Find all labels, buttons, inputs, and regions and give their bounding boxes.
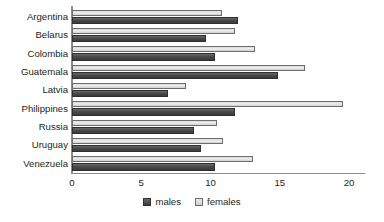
legend-item-females: females (195, 196, 241, 207)
bar-males (72, 72, 278, 79)
bar-males (72, 17, 238, 24)
bar-males (72, 145, 201, 152)
x-axis-line (71, 173, 365, 174)
bar-group (72, 136, 349, 154)
y-axis-label: Belarus (0, 26, 68, 44)
bar-females (72, 101, 343, 107)
legend-label: females (207, 196, 241, 207)
bar-females (72, 65, 305, 71)
bar-females (72, 120, 217, 126)
x-axis-tick-label: 20 (344, 176, 355, 190)
y-axis-category-labels: ArgentinaBelarusColombiaGuatemalaLatviaP… (0, 8, 68, 173)
bar-females (72, 10, 222, 16)
x-axis-tick-label: 10 (205, 176, 216, 190)
y-axis-label: Colombia (0, 45, 68, 63)
y-axis-label: Venezuela (0, 155, 68, 173)
y-axis-label: Uruguay (0, 136, 68, 154)
y-axis-label: Philippines (0, 100, 68, 118)
bar-group (72, 155, 349, 173)
bar-group (72, 118, 349, 136)
bar-males (72, 127, 194, 134)
y-axis-label: Russia (0, 118, 68, 136)
bar-group (72, 81, 349, 99)
x-axis-tick-label: 5 (139, 176, 144, 190)
y-axis-label: Guatemala (0, 63, 68, 81)
x-axis-tick-labels: 05101520 (0, 176, 384, 192)
legend-label: males (155, 196, 181, 207)
plot-area (72, 8, 349, 173)
bar-females (72, 156, 253, 162)
bar-group (72, 100, 349, 118)
x-axis-tick-label: 15 (274, 176, 285, 190)
bar-males (72, 90, 168, 97)
bar-females (72, 83, 186, 89)
x-axis-tick-label: 0 (69, 176, 74, 190)
bar-females (72, 28, 235, 34)
y-axis-label: Argentina (0, 8, 68, 26)
bar-females (72, 46, 255, 52)
chart-legend: malesfemales (0, 196, 384, 207)
y-axis-label: Latvia (0, 81, 68, 99)
bar-females (72, 138, 223, 144)
bar-males (72, 163, 215, 170)
females-swatch-icon (195, 198, 203, 206)
legend-item-males: males (143, 196, 181, 207)
bar-males (72, 35, 206, 42)
bar-group (72, 26, 349, 44)
bar-males (72, 108, 235, 115)
males-swatch-icon (143, 198, 151, 206)
bar-group (72, 63, 349, 81)
bar-chart: ArgentinaBelarusColombiaGuatemalaLatviaP… (0, 0, 384, 222)
bar-group (72, 45, 349, 63)
bar-group (72, 8, 349, 26)
bar-males (72, 53, 215, 60)
